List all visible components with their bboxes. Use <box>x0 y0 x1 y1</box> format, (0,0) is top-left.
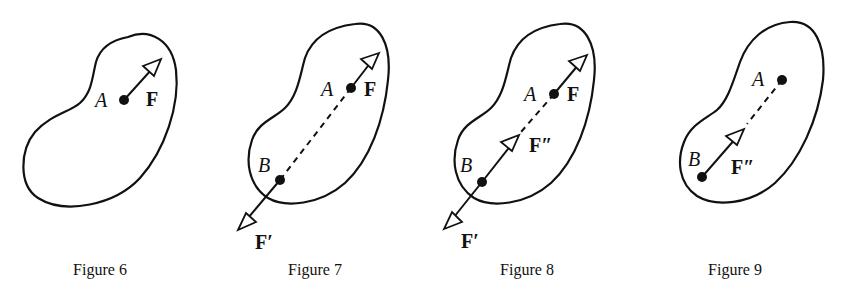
figure-caption: Figure 9 <box>708 261 762 279</box>
point-B <box>275 175 285 185</box>
point-A <box>777 75 787 85</box>
figure-caption: Figure 8 <box>500 261 554 279</box>
label-F: F <box>146 88 158 110</box>
label-F: F <box>567 83 579 105</box>
label-F-double-prime: F″ <box>731 156 754 178</box>
point-B <box>697 172 707 182</box>
point-B <box>477 177 487 187</box>
force-F-arrowhead-icon <box>361 53 379 69</box>
point-A <box>346 83 356 93</box>
force-F-prime-shaft <box>248 180 280 218</box>
label-A: A <box>522 83 537 105</box>
force-F-double-prime-arrowhead-icon <box>726 129 744 145</box>
label-B: B <box>460 154 472 176</box>
rigid-body-outline <box>23 34 176 206</box>
force-F-double-prime-shaft <box>482 145 511 182</box>
label-B: B <box>258 154 270 176</box>
label-A: A <box>319 78 334 100</box>
force-F-prime-arrowhead-icon <box>444 212 462 229</box>
label-F-double-prime: F″ <box>529 134 552 156</box>
figure-caption: Figure 7 <box>288 261 342 279</box>
force-F-arrowhead-icon <box>569 55 587 71</box>
label-F-prime: F′ <box>461 230 479 252</box>
label-A: A <box>750 68 765 90</box>
figure-6: A F Figure 6 <box>23 34 176 279</box>
label-F: F <box>364 78 376 100</box>
rigid-body-outline <box>249 24 389 204</box>
force-F-arrowhead-icon <box>143 59 161 76</box>
figure-strip: A F Figure 6 A F B F′ Figure 7 A F F″ B … <box>0 0 850 296</box>
label-B: B <box>688 148 700 170</box>
figure-9: A B F″ Figure 9 <box>680 22 823 279</box>
force-F-double-prime-arrowhead-icon <box>501 135 519 151</box>
rigid-body-outline <box>455 24 595 204</box>
label-F-prime: F′ <box>255 231 273 253</box>
force-F-prime-arrowhead-icon <box>238 213 256 230</box>
figure-8: A F F″ B F′ Figure 8 <box>444 24 595 279</box>
figure-7: A F B F′ Figure 7 <box>238 24 389 279</box>
point-A <box>119 95 129 105</box>
point-A <box>549 89 559 99</box>
figure-caption: Figure 6 <box>73 261 127 279</box>
label-A: A <box>93 89 108 111</box>
